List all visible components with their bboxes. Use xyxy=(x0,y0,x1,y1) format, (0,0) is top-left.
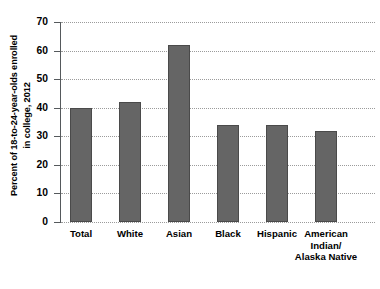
y-tick-mark xyxy=(54,136,60,137)
bar xyxy=(315,131,337,222)
gridline xyxy=(61,222,375,223)
y-tick-mark xyxy=(54,79,60,80)
y-tick-mark xyxy=(54,22,60,23)
bar xyxy=(119,102,141,222)
bar xyxy=(217,125,239,222)
y-tick-label: 70 xyxy=(4,17,48,27)
y-tick-mark xyxy=(54,51,60,52)
plot-area xyxy=(61,22,375,222)
x-tick-label: AmericanIndian/Alaska Native xyxy=(289,228,363,263)
bar xyxy=(168,45,190,222)
y-tick-mark xyxy=(54,222,60,223)
y-tick-mark xyxy=(54,108,60,109)
y-axis-title-line-2: in college, 2012 xyxy=(21,34,34,195)
gridline xyxy=(61,22,375,23)
bar xyxy=(70,108,92,222)
y-tick-label: 10 xyxy=(4,188,48,198)
gridline xyxy=(61,108,375,109)
bar-chart-figure: Percent of 18-to-24-year-olds enrolled i… xyxy=(0,0,380,289)
y-tick-label: 20 xyxy=(4,160,48,170)
gridline xyxy=(61,79,375,80)
gridline xyxy=(61,51,375,52)
y-axis-title-line-1: Percent of 18-to-24-year-olds enrolled xyxy=(9,34,22,195)
x-tick-label-line: Indian/ xyxy=(289,240,363,252)
y-tick-label: 30 xyxy=(4,131,48,141)
y-tick-mark xyxy=(54,165,60,166)
y-tick-label: 40 xyxy=(4,103,48,113)
bar xyxy=(266,125,288,222)
x-tick-label-line: American xyxy=(289,228,363,240)
y-tick-label: 0 xyxy=(4,217,48,227)
y-tick-mark xyxy=(54,193,60,194)
y-tick-label: 60 xyxy=(4,46,48,56)
y-tick-label: 50 xyxy=(4,74,48,84)
x-tick-label-line: Alaska Native xyxy=(289,251,363,263)
